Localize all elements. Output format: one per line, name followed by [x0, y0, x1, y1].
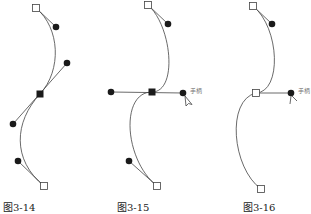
figure-3-16	[236, 6, 291, 189]
anchor-point	[154, 183, 161, 190]
figure-3-15	[111, 5, 183, 186]
figure-caption: 图3-16	[243, 199, 275, 214]
anchor-point	[253, 90, 260, 97]
handle-label: 手柄	[190, 86, 202, 95]
figure-caption: 图3-14	[3, 199, 35, 214]
anchor-point	[33, 5, 40, 12]
anchor-point	[145, 2, 152, 9]
anchor-point-selected	[37, 91, 44, 98]
cursor-arrow-icon	[185, 96, 192, 106]
control-point	[10, 121, 17, 128]
control-point	[64, 60, 71, 67]
control-point	[15, 158, 22, 165]
handle-label: 手柄	[298, 86, 310, 95]
control-point	[180, 90, 187, 97]
control-point	[165, 21, 172, 28]
anchor-point	[41, 183, 48, 190]
bezier-diagrams	[0, 0, 311, 214]
figure-caption: 图3-15	[117, 199, 149, 214]
control-point	[126, 158, 133, 165]
anchor-point-selected	[149, 89, 156, 96]
control-point	[108, 89, 115, 96]
control-point	[288, 90, 295, 97]
control-point	[53, 24, 60, 31]
convert-point-cursor-icon	[290, 96, 297, 104]
anchor-point	[250, 3, 257, 10]
anchor-point	[258, 186, 265, 193]
control-point	[269, 21, 276, 28]
